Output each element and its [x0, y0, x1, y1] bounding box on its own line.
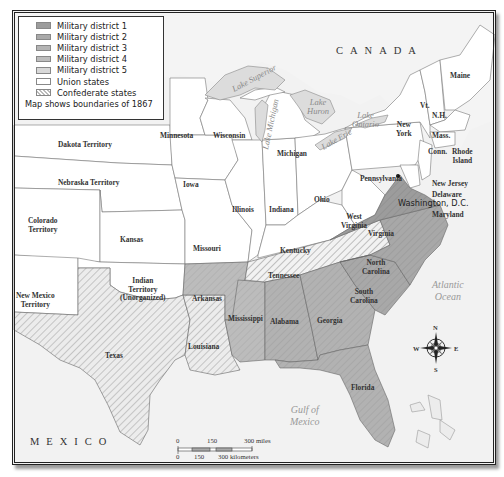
double-border — [12, 10, 496, 465]
map-border — [12, 10, 496, 465]
